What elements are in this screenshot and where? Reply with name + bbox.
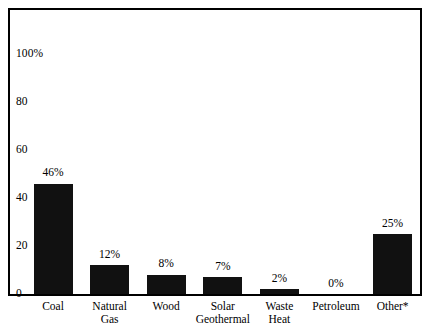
bar — [260, 289, 299, 294]
bar-group: 0% — [317, 10, 356, 294]
bar-value-label: 0% — [328, 278, 343, 290]
bar — [147, 275, 186, 294]
bar — [34, 184, 73, 294]
bar-group: 2% — [260, 10, 299, 294]
bars-layer: 46%12%8%7%2%0%25% — [10, 10, 420, 294]
bar-chart: 100%806040200 46%12%8%7%2%0%25% CoalNatu… — [0, 0, 432, 333]
bar-value-label: 7% — [215, 261, 230, 273]
x-axis-category-labels: CoalNaturalGasWoodSolarGeothermalWasteHe… — [8, 300, 422, 332]
x-axis-label-line: Heat — [231, 313, 327, 326]
bar-group: 12% — [90, 10, 129, 294]
bar-value-label: 8% — [159, 258, 174, 270]
x-axis-label-line: Other* — [345, 300, 432, 313]
x-axis-label-line: Gas — [62, 313, 158, 326]
plot-frame: 100%806040200 46%12%8%7%2%0%25% — [8, 8, 422, 296]
bar-value-label: 2% — [272, 273, 287, 285]
plot-area: 100%806040200 46%12%8%7%2%0%25% — [10, 10, 420, 294]
bar-group: 7% — [203, 10, 242, 294]
x-axis-label-6: Other* — [345, 300, 432, 313]
bar-group: 46% — [34, 10, 73, 294]
bar — [90, 265, 129, 294]
bar-group: 8% — [147, 10, 186, 294]
bar-group: 25% — [373, 10, 412, 294]
bar-value-label: 12% — [99, 249, 120, 261]
bar — [203, 277, 242, 294]
bar-value-label: 46% — [42, 167, 63, 179]
bar — [373, 234, 412, 294]
bar-value-label: 25% — [382, 218, 403, 230]
